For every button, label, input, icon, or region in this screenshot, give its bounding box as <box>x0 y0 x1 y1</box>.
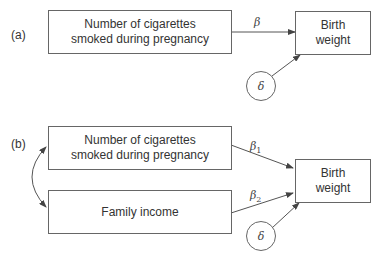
arrow-delta-to-birthweight-a <box>272 55 300 76</box>
cigarettes-box-a-line1: Number of cigarettes <box>71 17 209 32</box>
birth-weight-box-b: Birth weight <box>295 159 371 203</box>
birth-weight-a-line2: weight <box>316 33 351 48</box>
arrow-cigarettes-to-birthweight-b <box>231 145 293 168</box>
beta2-label: β2 <box>250 189 261 204</box>
cigarettes-box-a: Number of cigarettes smoked during pregn… <box>48 10 232 54</box>
cigarettes-box-b: Number of cigarettes smoked during pregn… <box>48 126 232 170</box>
birth-weight-b-line1: Birth <box>316 166 351 181</box>
birth-weight-a-line1: Birth <box>316 18 351 33</box>
correlation-arrow <box>32 147 46 207</box>
delta-error-circle-b: δ <box>246 221 276 251</box>
panel-a-label: (a) <box>11 28 26 42</box>
birth-weight-box-a: Birth weight <box>295 11 371 55</box>
arrow-delta-to-birthweight-b <box>272 203 299 228</box>
arrow-income-to-birthweight-b <box>231 193 293 213</box>
beta-label-a: β <box>254 16 260 29</box>
panel-b-label: (b) <box>11 137 26 151</box>
family-income-label: Family income <box>101 205 178 220</box>
birth-weight-b-line2: weight <box>316 181 351 196</box>
delta-error-circle-a: δ <box>246 71 276 101</box>
cigarettes-box-b-line2: smoked during pregnancy <box>71 148 209 163</box>
cigarettes-box-b-line1: Number of cigarettes <box>71 133 209 148</box>
beta1-label: β1 <box>250 140 261 155</box>
family-income-box: Family income <box>48 190 232 234</box>
cigarettes-box-a-line2: smoked during pregnancy <box>71 32 209 47</box>
